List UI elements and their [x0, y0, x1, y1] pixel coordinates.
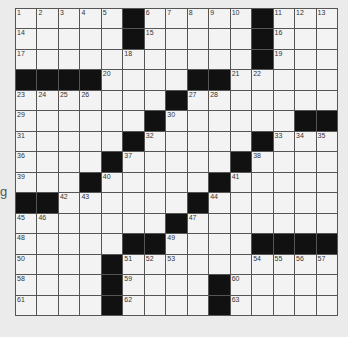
- grid-cell[interactable]: [166, 50, 186, 69]
- grid-cell[interactable]: [231, 50, 251, 69]
- grid-cell[interactable]: [80, 275, 100, 294]
- grid-cell[interactable]: [80, 296, 100, 315]
- grid-cell[interactable]: 34: [295, 132, 315, 151]
- grid-cell[interactable]: [317, 296, 337, 315]
- grid-cell[interactable]: [274, 296, 294, 315]
- grid-cell[interactable]: [145, 50, 165, 69]
- grid-cell[interactable]: [252, 214, 272, 233]
- grid-cell[interactable]: [166, 152, 186, 171]
- grid-cell[interactable]: [231, 132, 251, 151]
- grid-cell[interactable]: [102, 29, 122, 48]
- grid-cell[interactable]: 24: [37, 91, 57, 110]
- grid-cell[interactable]: [252, 173, 272, 192]
- grid-cell[interactable]: [295, 29, 315, 48]
- grid-cell[interactable]: [209, 152, 229, 171]
- grid-cell[interactable]: [102, 193, 122, 212]
- grid-cell[interactable]: 49: [166, 234, 186, 253]
- grid-cell[interactable]: 52: [145, 255, 165, 274]
- grid-cell[interactable]: 10: [231, 9, 251, 28]
- grid-cell[interactable]: [295, 50, 315, 69]
- grid-cell[interactable]: [274, 173, 294, 192]
- grid-cell[interactable]: [80, 132, 100, 151]
- grid-cell[interactable]: [231, 193, 251, 212]
- grid-cell[interactable]: [317, 152, 337, 171]
- grid-cell[interactable]: [231, 214, 251, 233]
- grid-cell[interactable]: [102, 214, 122, 233]
- grid-cell[interactable]: 41: [231, 173, 251, 192]
- grid-cell[interactable]: [295, 173, 315, 192]
- grid-cell[interactable]: [274, 70, 294, 89]
- grid-cell[interactable]: 27: [188, 91, 208, 110]
- grid-cell[interactable]: 39: [16, 173, 36, 192]
- grid-cell[interactable]: 9: [209, 9, 229, 28]
- grid-cell[interactable]: 54: [252, 255, 272, 274]
- grid-cell[interactable]: [145, 173, 165, 192]
- grid-cell[interactable]: 44: [209, 193, 229, 212]
- grid-cell[interactable]: 55: [274, 255, 294, 274]
- grid-cell[interactable]: 38: [252, 152, 272, 171]
- grid-cell[interactable]: [59, 152, 79, 171]
- grid-cell[interactable]: 32: [145, 132, 165, 151]
- grid-cell[interactable]: [188, 29, 208, 48]
- grid-cell[interactable]: [209, 132, 229, 151]
- grid-cell[interactable]: 26: [80, 91, 100, 110]
- grid-cell[interactable]: [231, 29, 251, 48]
- grid-cell[interactable]: [252, 296, 272, 315]
- grid-cell[interactable]: [252, 275, 272, 294]
- grid-cell[interactable]: [123, 193, 143, 212]
- grid-cell[interactable]: [317, 173, 337, 192]
- grid-cell[interactable]: [123, 70, 143, 89]
- grid-cell[interactable]: [252, 193, 272, 212]
- grid-cell[interactable]: [274, 193, 294, 212]
- grid-cell[interactable]: [80, 152, 100, 171]
- grid-cell[interactable]: [317, 29, 337, 48]
- grid-cell[interactable]: [37, 296, 57, 315]
- grid-cell[interactable]: [188, 275, 208, 294]
- grid-cell[interactable]: [295, 91, 315, 110]
- grid-cell[interactable]: [145, 275, 165, 294]
- grid-cell[interactable]: 56: [295, 255, 315, 274]
- grid-cell[interactable]: [37, 173, 57, 192]
- grid-cell[interactable]: 33: [274, 132, 294, 151]
- grid-cell[interactable]: 47: [188, 214, 208, 233]
- grid-cell[interactable]: 16: [274, 29, 294, 48]
- grid-cell[interactable]: [59, 50, 79, 69]
- grid-cell[interactable]: 6: [145, 9, 165, 28]
- grid-cell[interactable]: [295, 193, 315, 212]
- grid-cell[interactable]: [102, 50, 122, 69]
- grid-cell[interactable]: [166, 173, 186, 192]
- grid-cell[interactable]: [209, 255, 229, 274]
- grid-cell[interactable]: [123, 111, 143, 130]
- grid-cell[interactable]: [102, 91, 122, 110]
- grid-cell[interactable]: 1: [16, 9, 36, 28]
- grid-cell[interactable]: [188, 255, 208, 274]
- grid-cell[interactable]: 19: [274, 50, 294, 69]
- grid-cell[interactable]: [80, 29, 100, 48]
- grid-cell[interactable]: [274, 152, 294, 171]
- grid-cell[interactable]: [231, 255, 251, 274]
- grid-cell[interactable]: [145, 152, 165, 171]
- grid-cell[interactable]: [295, 70, 315, 89]
- grid-cell[interactable]: [37, 111, 57, 130]
- grid-cell[interactable]: [295, 275, 315, 294]
- grid-cell[interactable]: [102, 132, 122, 151]
- grid-cell[interactable]: 31: [16, 132, 36, 151]
- grid-cell[interactable]: 62: [123, 296, 143, 315]
- grid-cell[interactable]: [209, 50, 229, 69]
- grid-cell[interactable]: [59, 132, 79, 151]
- grid-cell[interactable]: [37, 152, 57, 171]
- grid-cell[interactable]: 46: [37, 214, 57, 233]
- grid-cell[interactable]: [188, 234, 208, 253]
- grid-cell[interactable]: [37, 255, 57, 274]
- grid-cell[interactable]: [274, 91, 294, 110]
- grid-cell[interactable]: [188, 173, 208, 192]
- grid-cell[interactable]: [166, 275, 186, 294]
- grid-cell[interactable]: [209, 214, 229, 233]
- grid-cell[interactable]: 57: [317, 255, 337, 274]
- grid-cell[interactable]: [80, 111, 100, 130]
- grid-cell[interactable]: [123, 214, 143, 233]
- grid-cell[interactable]: [145, 91, 165, 110]
- grid-cell[interactable]: [145, 70, 165, 89]
- grid-cell[interactable]: [317, 214, 337, 233]
- grid-cell[interactable]: 35: [317, 132, 337, 151]
